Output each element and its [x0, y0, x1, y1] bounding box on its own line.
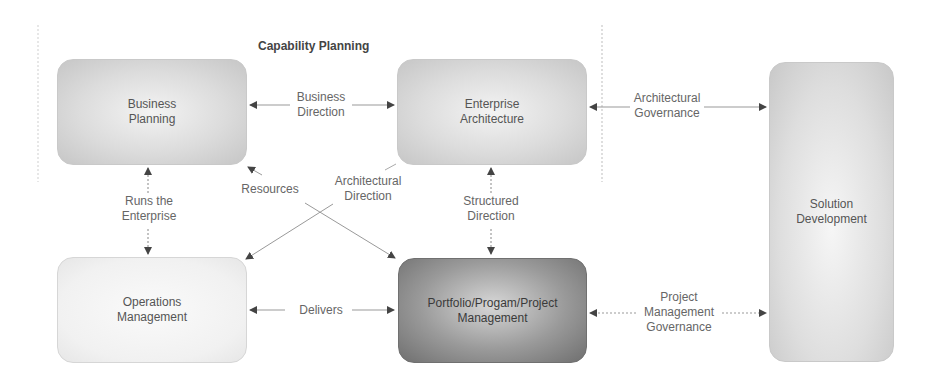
structured-direction-label: Structured Direction: [456, 194, 526, 224]
resources-arrow-up: [248, 167, 262, 175]
business-planning-label: Business Planning: [128, 97, 177, 127]
capability-planning-title: Capability Planning: [258, 39, 369, 53]
solution-development-node: Solution Development: [769, 62, 894, 362]
architectural-direction-arrow: [246, 204, 333, 259]
operations-management-node: Operations Management: [57, 257, 247, 363]
solution-development-label: Solution Development: [796, 197, 867, 227]
portfolio-management-label: Portfolio/Progam/Project Management: [427, 296, 557, 326]
architectural-governance-label: Architectural Governance: [630, 91, 704, 121]
business-planning-node: Business Planning: [57, 59, 247, 165]
architectural-direction-label: Architectural Direction: [330, 174, 406, 204]
business-direction-label: Business Direction: [290, 90, 352, 120]
resources-arrow-down: [305, 203, 395, 258]
enterprise-architecture-node: Enterprise Architecture: [397, 59, 587, 165]
operations-management-label: Operations Management: [117, 295, 187, 325]
architectural-direction-line-top: [385, 164, 396, 170]
pm-governance-label: Project Management Governance: [636, 290, 722, 335]
runs-enterprise-label: Runs the Enterprise: [113, 194, 185, 224]
resources-label: Resources: [237, 182, 303, 197]
enterprise-architecture-label: Enterprise Architecture: [460, 97, 524, 127]
portfolio-management-node: Portfolio/Progam/Project Management: [398, 258, 587, 363]
delivers-label: Delivers: [290, 303, 352, 318]
